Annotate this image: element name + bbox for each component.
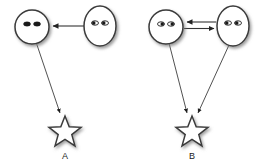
face-outline — [84, 6, 116, 46]
arrow-line — [169, 43, 187, 113]
panel-a-left-face — [15, 10, 49, 44]
panel-a-right-face — [84, 6, 116, 46]
panel-a-star — [49, 116, 81, 146]
panel-b-right-face — [217, 6, 249, 46]
panel-a: A — [15, 6, 116, 161]
panel-a-gaze-arrow-left-face-to-star — [36, 42, 60, 113]
joint-attention-diagram: A — [0, 0, 261, 165]
star-outline — [49, 116, 81, 146]
panel-b-gaze-arrow-left-face-to-star — [169, 43, 187, 113]
panel-b-star — [176, 116, 208, 146]
arrow-line — [198, 45, 229, 113]
face-outline — [217, 6, 249, 46]
panel-b: B — [149, 6, 249, 161]
pupil-right — [102, 21, 105, 24]
panel-b-gaze-arrow-right-face-to-star — [198, 45, 229, 113]
pupil-left — [225, 21, 228, 24]
pupil-right — [171, 22, 174, 25]
panel-b-left-face — [149, 10, 183, 44]
star-outline — [176, 116, 208, 146]
pupil-left — [92, 21, 95, 24]
panel-a-label: A — [62, 151, 68, 161]
face-outline — [15, 10, 49, 44]
arrow-line — [36, 42, 60, 113]
panel-b-label: B — [189, 151, 195, 161]
pupil-left — [27, 22, 30, 25]
pupil-right — [37, 22, 40, 25]
figure-root: A — [0, 0, 261, 165]
pupil-right — [235, 21, 238, 24]
face-outline — [149, 10, 183, 44]
pupil-left — [161, 22, 164, 25]
